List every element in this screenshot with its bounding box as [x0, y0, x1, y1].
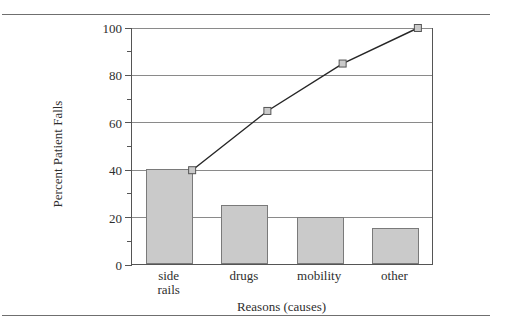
- y-axis-tick-minor: [127, 99, 132, 100]
- gridline: [132, 75, 433, 76]
- y-axis-tick-label: 0: [116, 259, 123, 272]
- x-axis-category-label-line: other: [357, 269, 432, 283]
- y-axis-tick-label: 100: [103, 22, 123, 35]
- x-axis-category-label: siderails: [131, 269, 206, 297]
- y-axis-tick-major: [125, 28, 132, 29]
- y-axis-tick-major: [125, 265, 132, 266]
- y-axis-tick-minor: [127, 51, 132, 52]
- y-axis-tick-major: [125, 122, 132, 123]
- gridline: [132, 28, 433, 29]
- x-axis-category-label: other: [357, 269, 432, 283]
- y-axis-tick-label: 20: [109, 211, 122, 224]
- x-axis-category-label-line: mobility: [282, 269, 357, 283]
- page-rule-bottom: [2, 315, 490, 316]
- bar-mobility: [297, 217, 344, 264]
- y-axis-tick-label: 60: [109, 116, 122, 129]
- bar-other: [372, 228, 419, 264]
- x-axis-category-label: drugs: [206, 269, 281, 283]
- y-axis-title: Percent Patient Falls: [50, 74, 66, 234]
- plot-right-edge: [432, 28, 433, 265]
- plot-area: 020406080100: [131, 28, 432, 265]
- x-axis-category-label: mobility: [282, 269, 357, 283]
- y-axis-tick-major: [125, 217, 132, 218]
- x-axis-category-label-line: rails: [131, 283, 206, 297]
- bar-side-rails: [146, 169, 193, 264]
- gridline: [132, 122, 433, 123]
- y-axis-tick-label: 40: [109, 164, 122, 177]
- y-axis-tick-minor: [127, 193, 132, 194]
- y-axis-tick-label: 80: [109, 69, 122, 82]
- y-axis-tick-major: [125, 75, 132, 76]
- x-axis-title: Reasons (causes): [131, 299, 432, 315]
- pareto-chart-figure: 020406080100 Reasons (causes) Percent Pa…: [0, 14, 509, 315]
- x-axis-category-label-line: side: [131, 269, 206, 283]
- bar-drugs: [221, 205, 268, 264]
- y-axis-tick-minor: [127, 146, 132, 147]
- x-axis-category-label-line: drugs: [206, 269, 281, 283]
- y-axis-tick-minor: [127, 241, 132, 242]
- y-axis-tick-major: [125, 170, 132, 171]
